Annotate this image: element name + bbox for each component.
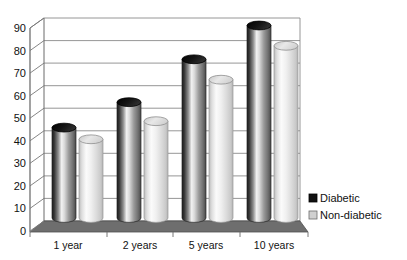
chart-canvas: 90 80 70 60 50 40 30 20 10 0 (0, 0, 407, 260)
bar-diabetic-2-years (117, 98, 141, 223)
y-tick-label: 50 (14, 112, 26, 124)
y-tick-label: 10 (14, 202, 26, 214)
legend-label-non-diabetic: Non-diabetic (320, 209, 382, 221)
x-axis: 1 year 2 years 5 years 10 years (30, 232, 308, 251)
y-tick-labels: 90 80 70 60 50 40 30 20 10 0 (14, 22, 26, 237)
legend: Diabetic Non-diabetic (309, 192, 382, 221)
x-tick-label: 2 years (123, 239, 157, 251)
bar-diabetic-1-year (52, 123, 76, 222)
x-tick-labels: 1 year 2 years 5 years 10 years (53, 239, 294, 251)
y-tick-label: 90 (14, 22, 26, 34)
x-tick-label: 5 years (189, 239, 223, 251)
y-axis: 90 80 70 60 50 40 30 20 10 0 (14, 18, 44, 237)
x-tick-label: 1 year (53, 239, 83, 251)
legend-label-diabetic: Diabetic (320, 192, 360, 204)
x-tick-label: 10 years (254, 239, 294, 251)
legend-item-diabetic[interactable]: Diabetic (309, 192, 360, 204)
bar-chart: 90 80 70 60 50 40 30 20 10 0 (0, 0, 407, 260)
floor-plane (30, 221, 308, 232)
bar-diabetic-10-years (247, 21, 271, 222)
y-tick-label: 20 (14, 180, 26, 192)
x-axis-ticks (30, 232, 308, 237)
y-tick-label: 0 (20, 225, 26, 237)
y-tick-label: 60 (14, 90, 26, 102)
legend-item-non-diabetic[interactable]: Non-diabetic (309, 209, 382, 221)
legend-swatch-diabetic (309, 194, 317, 202)
legend-swatch-non-diabetic (309, 211, 317, 219)
y-tick-label: 30 (14, 157, 26, 169)
bar-diabetic-5-years (182, 55, 206, 223)
bar-non-diabetic-1-year (79, 135, 103, 222)
y-tick-label: 40 (14, 135, 26, 147)
y-axis-ticks (30, 18, 44, 231)
y-tick-label: 70 (14, 67, 26, 79)
y-tick-label: 80 (14, 45, 26, 57)
bar-non-diabetic-2-years (144, 117, 168, 223)
bar-non-diabetic-5-years (209, 75, 233, 222)
bar-non-diabetic-10-years (274, 41, 298, 222)
